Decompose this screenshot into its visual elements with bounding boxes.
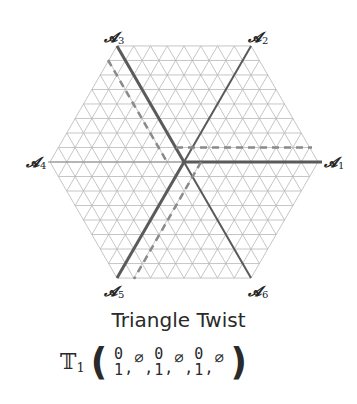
separator: , bbox=[164, 359, 173, 377]
axis-label-a6: 𝓐6 bbox=[248, 284, 268, 300]
diagram-title: Triangle Twist bbox=[0, 308, 357, 332]
term-empty-2: ∅ bbox=[174, 349, 183, 367]
operator-symbol: 𝕋1 bbox=[60, 349, 85, 375]
term-stack-2: 01 bbox=[154, 346, 163, 378]
twist-formula: 𝕋1 ( 01 , ∅ , 01 , ∅ , 01 , ∅ ) bbox=[60, 340, 253, 384]
separator: , bbox=[204, 359, 213, 377]
open-paren: ( bbox=[91, 343, 107, 381]
term-stack-3: 01 bbox=[194, 346, 203, 378]
separator: , bbox=[124, 359, 133, 377]
separator: , bbox=[144, 359, 153, 377]
term-empty-3: ∅ bbox=[214, 349, 223, 367]
term-stack-1: 01 bbox=[114, 346, 123, 378]
axis-label-a5: 𝓐5 bbox=[104, 284, 124, 300]
triangular-lattice bbox=[0, 0, 357, 300]
axis-label-a4: 𝓐4 bbox=[26, 155, 46, 171]
axis-label-a3: 𝓐3 bbox=[104, 30, 124, 46]
close-paren: ) bbox=[230, 343, 246, 381]
term-empty-1: ∅ bbox=[134, 349, 143, 367]
hexagonal-grid-diagram: 𝓐1 𝓐2 𝓐3 𝓐4 𝓐5 𝓐6 bbox=[0, 0, 357, 300]
axis-label-a2: 𝓐2 bbox=[248, 30, 268, 46]
separator: , bbox=[184, 359, 193, 377]
axis-label-a1: 𝓐1 bbox=[324, 155, 344, 171]
twist-paths bbox=[48, 46, 322, 279]
